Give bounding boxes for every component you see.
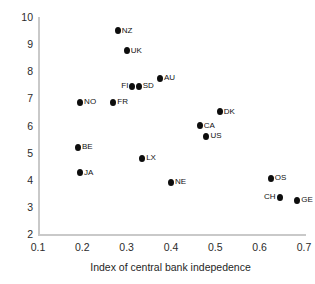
data-point-label-sd: SD bbox=[143, 82, 154, 90]
y-axis-tick-10: 10 bbox=[21, 12, 33, 23]
data-point-label-dk: DK bbox=[224, 108, 235, 116]
x-axis-tick-0.7: 0.7 bbox=[297, 242, 312, 253]
data-point-ge bbox=[294, 197, 300, 204]
x-axis-tick-0.3: 0.3 bbox=[119, 242, 134, 253]
data-point-fr bbox=[110, 99, 116, 106]
data-point-uk bbox=[124, 47, 130, 54]
data-point-sd bbox=[136, 83, 142, 90]
data-point-ca bbox=[197, 122, 203, 129]
data-point-lx bbox=[139, 155, 145, 162]
x-axis-tick-0.5: 0.5 bbox=[208, 242, 223, 253]
y-axis-tick-5: 5 bbox=[27, 147, 33, 158]
x-axis-tick-0.2: 0.2 bbox=[75, 242, 90, 253]
data-point-au bbox=[157, 75, 163, 82]
plot-area: 2345678910 0.10.20.30.40.50.60.7 NZUKAUF… bbox=[38, 12, 306, 236]
y-axis-tick-8: 8 bbox=[27, 66, 33, 77]
scatter-chart-figure: 2345678910 0.10.20.30.40.50.60.7 NZUKAUF… bbox=[0, 0, 315, 284]
data-point-label-os: OS bbox=[275, 174, 287, 182]
data-point-dk bbox=[217, 108, 223, 115]
data-point-fi bbox=[129, 83, 135, 90]
data-point-label-au: AU bbox=[164, 74, 175, 82]
data-point-us bbox=[203, 133, 209, 140]
y-axis-tick-2: 2 bbox=[27, 229, 33, 240]
y-axis-tick-9: 9 bbox=[27, 39, 33, 50]
data-point-ja bbox=[77, 169, 83, 176]
data-point-label-nz: NZ bbox=[122, 27, 133, 35]
data-point-be bbox=[75, 144, 81, 151]
y-axis-tick-7: 7 bbox=[27, 93, 33, 104]
data-point-label-fi: FI bbox=[121, 82, 128, 90]
data-point-ne bbox=[168, 179, 174, 186]
data-point-no bbox=[77, 99, 83, 106]
data-point-label-ne: NE bbox=[175, 178, 186, 186]
data-point-label-ge: GE bbox=[301, 196, 313, 204]
x-axis-tick-0.4: 0.4 bbox=[164, 242, 179, 253]
data-point-os bbox=[268, 175, 274, 182]
data-point-label-ca: CA bbox=[204, 122, 215, 130]
data-point-label-uk: UK bbox=[131, 47, 142, 55]
data-point-label-fr: FR bbox=[117, 98, 128, 106]
y-axis-line bbox=[38, 17, 40, 236]
data-point-label-ja: JA bbox=[84, 169, 93, 177]
y-axis-tick-3: 3 bbox=[27, 202, 33, 213]
data-point-label-us: US bbox=[210, 132, 221, 140]
data-point-label-no: NO bbox=[84, 98, 96, 106]
data-point-label-be: BE bbox=[82, 143, 93, 151]
data-point-label-ch: CH bbox=[264, 193, 276, 201]
x-axis-title: Index of central bank indepedence bbox=[0, 262, 315, 273]
y-axis-tick-6: 6 bbox=[27, 120, 33, 131]
data-point-ch bbox=[277, 194, 283, 201]
x-axis-tick-0.6: 0.6 bbox=[252, 242, 267, 253]
x-axis-tick-0.1: 0.1 bbox=[31, 242, 46, 253]
x-axis-line bbox=[38, 234, 306, 236]
data-point-nz bbox=[115, 27, 121, 34]
data-point-label-lx: LX bbox=[146, 154, 156, 162]
y-axis-tick-4: 4 bbox=[27, 175, 33, 186]
